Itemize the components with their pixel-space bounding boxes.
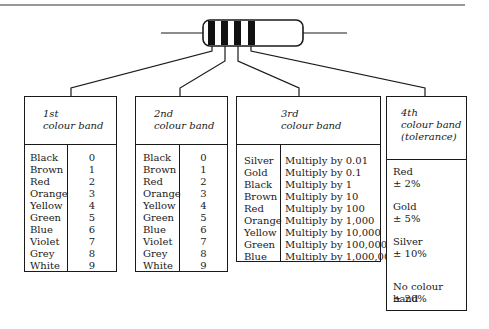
multiplier-value: Multiply by 100,000: [285, 239, 380, 251]
second-band-header: 2nd colour band: [136, 97, 227, 145]
fourth-band-header: 4th colour band (tolerance): [387, 97, 466, 160]
digit-value: 4: [180, 200, 227, 212]
colour-name: Gold: [244, 167, 280, 179]
connector-band-1: [71, 46, 212, 97]
colour-name: Silver: [244, 155, 280, 167]
colour-name: Orange: [244, 215, 280, 227]
multiplier-value: Multiply by 1,000: [285, 215, 380, 227]
first-band-box: 1st colour band Black Brown Red Orange Y…: [24, 96, 117, 272]
digit-value: 4: [68, 200, 116, 212]
colour-name: Green: [244, 239, 280, 251]
third-band-header: 3rd colour band: [237, 97, 380, 145]
digit-value: 1: [180, 164, 227, 176]
colour-name: Orange: [30, 188, 68, 200]
colour-name: Grey: [143, 248, 179, 260]
colour-name: Blue: [143, 224, 179, 236]
multiplier-value: Multiply by 10,000: [285, 227, 380, 239]
colour-name: Blue: [30, 224, 68, 236]
colour-name: Black: [30, 152, 68, 164]
multiplier-value: Multiply by 1,000,000: [285, 251, 380, 263]
digit-value: 2: [68, 176, 116, 188]
resistor-band-1: [208, 21, 215, 45]
colour-name: Orange: [143, 188, 179, 200]
digit-value: 3: [180, 188, 227, 200]
digit-value: 7: [180, 236, 227, 248]
digit-value: 1: [68, 164, 116, 176]
tolerance-colour: Red: [393, 166, 413, 178]
header-ordinal: 3rd: [281, 108, 299, 120]
first-band-table: Black Brown Red Orange Yellow Green Blue…: [25, 145, 116, 271]
multiplier-value: Multiply by 100: [285, 203, 380, 215]
resistor-band-2: [221, 21, 228, 45]
header-label: colour band: [154, 120, 214, 132]
colour-name: White: [30, 260, 68, 272]
tolerance-value: ± 10%: [393, 248, 427, 260]
multiplier-value: Multiply by 0.01: [285, 155, 380, 167]
multiplier-value: Multiply by 1: [285, 179, 380, 191]
header-ordinal: 1st: [43, 108, 59, 120]
first-band-header: 1st colour band: [25, 97, 116, 145]
digit-value: 5: [68, 212, 116, 224]
column-divider: 0 1 2 3 4 5 6 7 8 9: [179, 145, 227, 271]
colour-name: White: [143, 260, 179, 272]
multiplier-value: Multiply by 0.1: [285, 167, 380, 179]
digit-value: 3: [68, 188, 116, 200]
header-label: colour band: [401, 119, 461, 131]
digit-value: 7: [68, 236, 116, 248]
digit-value: 5: [180, 212, 227, 224]
tolerance-value: ± 5%: [393, 213, 420, 225]
tolerance-colour: Gold: [393, 201, 417, 213]
digit-value: 6: [180, 224, 227, 236]
colour-name: Red: [143, 176, 179, 188]
third-band-box: 3rd colour band Silver Gold Black Brown …: [236, 96, 381, 262]
resistor-band-4: [248, 21, 255, 45]
header-ordinal: 4th: [401, 107, 418, 119]
colour-name: Blue: [244, 251, 280, 263]
resistor-band-3: [234, 21, 241, 45]
fourth-band-table: Red ± 2% Gold ± 5% Silver ± 10% No colou…: [387, 160, 466, 310]
colour-name: Green: [143, 212, 179, 224]
colour-name: Violet: [30, 236, 68, 248]
digit-value: 9: [180, 260, 227, 272]
second-band-box: 2nd colour band Black Brown Red Orange Y…: [135, 96, 228, 272]
digit-value: 8: [68, 248, 116, 260]
connector-band-3: [238, 46, 299, 97]
digit-value: 0: [180, 152, 227, 164]
multiplier-value: Multiply by 10: [285, 191, 380, 203]
column-divider: Multiply by 0.01 Multiply by 0.1 Multipl…: [280, 145, 380, 261]
colour-name: Yellow: [30, 200, 68, 212]
header-label: colour band: [281, 120, 341, 132]
fourth-band-box: 4th colour band (tolerance) Red ± 2% Gol…: [386, 96, 467, 311]
digit-value: 6: [68, 224, 116, 236]
header-label: colour band: [43, 120, 103, 132]
connector-band-4: [251, 46, 425, 97]
tolerance-colour: Silver: [393, 236, 423, 248]
tolerance-value: ± 2%: [393, 178, 420, 190]
colour-name: Violet: [143, 236, 179, 248]
colour-name: Brown: [143, 164, 179, 176]
digit-value: 0: [68, 152, 116, 164]
colour-name: Yellow: [244, 227, 280, 239]
header-tolerance: (tolerance): [401, 131, 457, 143]
digit-value: 9: [68, 260, 116, 272]
digit-value: 8: [180, 248, 227, 260]
colour-name: Black: [143, 152, 179, 164]
colour-name: Grey: [30, 248, 68, 260]
tolerance-value: ± 20%: [393, 293, 427, 305]
colour-name: Green: [30, 212, 68, 224]
colour-name: Black: [244, 179, 280, 191]
colour-name: Yellow: [143, 200, 179, 212]
colour-name: Brown: [30, 164, 68, 176]
column-divider: 0 1 2 3 4 5 6 7 8 9: [67, 145, 116, 271]
header-ordinal: 2nd: [154, 108, 173, 120]
third-band-table: Silver Gold Black Brown Red Orange Yello…: [237, 145, 380, 261]
colour-name: Brown: [244, 191, 280, 203]
second-band-table: Black Brown Red Orange Yellow Green Blue…: [136, 145, 227, 271]
colour-name: Red: [244, 203, 280, 215]
colour-name: Red: [30, 176, 68, 188]
digit-value: 2: [180, 176, 227, 188]
